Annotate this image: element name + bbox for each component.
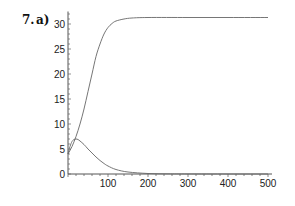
y-tick-label: 15 xyxy=(54,94,66,105)
x-tick-label: 100 xyxy=(100,178,117,189)
chart-ticks xyxy=(68,14,268,177)
series-line-1 xyxy=(68,17,268,154)
chart-axes xyxy=(68,12,272,175)
series-line-2 xyxy=(68,139,268,174)
chart-series xyxy=(68,17,268,174)
y-tick-label: 5 xyxy=(59,144,65,155)
x-tick-label: 300 xyxy=(180,178,197,189)
y-tick-label: 20 xyxy=(54,69,66,80)
chart-tick-labels: 100200300400500051015202530 xyxy=(54,19,277,189)
y-tick-label: 10 xyxy=(54,119,66,130)
line-chart: 100200300400500051015202530 xyxy=(0,0,295,206)
y-tick-label: 25 xyxy=(54,44,66,55)
y-tick-label: 30 xyxy=(54,19,66,30)
x-tick-label: 500 xyxy=(260,178,277,189)
x-tick-label: 400 xyxy=(220,178,237,189)
x-tick-label: 200 xyxy=(140,178,157,189)
y-tick-label: 0 xyxy=(59,169,65,180)
